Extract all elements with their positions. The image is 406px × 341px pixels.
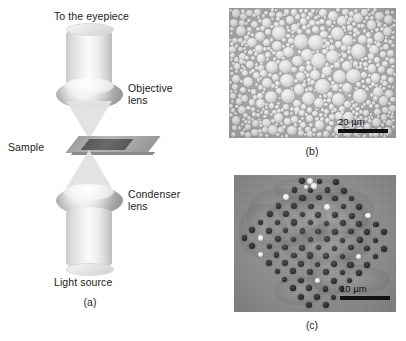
figure-root: To the eyepiece Objective lens Sample Co…	[0, 0, 406, 341]
lower-light-cone	[66, 150, 112, 188]
sample-specimen-area	[81, 139, 134, 150]
condenser-lens-top-face	[64, 184, 114, 200]
panel-c-vignette	[234, 175, 396, 312]
panel-b-scale-bar	[338, 129, 388, 133]
panel-b-vignette	[229, 8, 396, 138]
panel-tag-a: (a)	[70, 296, 110, 308]
panel-c-micrograph	[234, 175, 396, 312]
upper-light-cone	[66, 101, 112, 139]
objective-lens-top-face	[64, 78, 114, 94]
label-objective-lens-line2: lens	[128, 94, 148, 106]
label-to-the-eyepiece: To the eyepiece	[54, 10, 129, 22]
panel-a-schematic: To the eyepiece Objective lens Sample Co…	[0, 0, 214, 341]
lower-tube-light-source	[66, 207, 112, 269]
upper-tube-cap	[66, 23, 114, 36]
panel-c-scale-bar	[340, 296, 390, 300]
label-objective-lens-line1: Objective	[128, 82, 173, 94]
lower-tube-base	[66, 263, 114, 276]
label-condenser-lens-line1: Condenser	[128, 188, 180, 200]
panel-b-micrograph	[229, 8, 396, 138]
panel-c-scale-label: 10 µm	[340, 283, 367, 294]
label-condenser-lens-line2: lens	[128, 200, 148, 212]
panel-b-scale-label: 20 µm	[338, 116, 365, 127]
label-sample: Sample	[8, 141, 44, 153]
panel-tag-c: (c)	[292, 319, 332, 331]
label-light-source: Light source	[54, 276, 112, 288]
panel-tag-b: (b)	[292, 145, 332, 157]
